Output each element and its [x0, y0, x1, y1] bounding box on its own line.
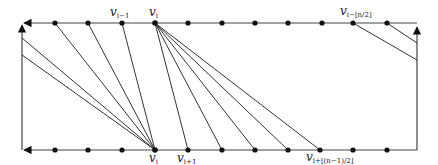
- chord: [155, 23, 288, 150]
- vertex-v-i-minus-1: [119, 20, 124, 25]
- chords: [22, 23, 417, 150]
- vertex: [185, 20, 190, 25]
- vertex-v-i-top: [152, 20, 158, 26]
- chord: [353, 23, 417, 60]
- vertex: [52, 147, 57, 152]
- chord: [55, 23, 155, 150]
- vertex: [285, 20, 290, 25]
- chord: [155, 23, 222, 150]
- vertex: [384, 20, 389, 25]
- label-v-i-top: vi: [149, 5, 159, 20]
- label-v-i-plus-half-n-minus-1: vi+⌊(n−1)/2⌋: [306, 150, 354, 165]
- vertex-v-i-plus-1: [185, 147, 190, 152]
- chord: [387, 23, 417, 43]
- label-v-i-bottom: vi: [149, 151, 159, 165]
- chord: [88, 23, 155, 150]
- chord: [155, 23, 255, 150]
- vertex-v-i-plus-half-n-minus-1: [317, 147, 322, 152]
- vertex: [350, 147, 355, 152]
- vertex: [119, 147, 124, 152]
- chord: [22, 38, 155, 150]
- label-v-i-minus-half-n: vi−⌊n/2⌋: [340, 4, 372, 19]
- chord: [155, 23, 320, 150]
- vertex: [219, 147, 224, 152]
- labels: vi−1 vi vi−⌊n/2⌋ vi vi+1 vi+⌊(n−1)/2⌋: [110, 4, 372, 165]
- vertex-v-i-minus-half-n: [350, 20, 355, 25]
- vertex: [252, 20, 257, 25]
- frame: [22, 23, 417, 150]
- vertex: [384, 147, 389, 152]
- vertex: [85, 20, 90, 25]
- label-v-i-plus-1: vi+1: [177, 151, 196, 165]
- vertex: [319, 20, 324, 25]
- chord: [155, 23, 188, 150]
- label-v-i-minus-1: vi−1: [110, 5, 129, 20]
- graph-diagram: vi−1 vi vi−⌊n/2⌋ vi vi+1 vi+⌊(n−1)/2⌋: [0, 0, 438, 165]
- vertex: [219, 20, 224, 25]
- vertex: [52, 20, 57, 25]
- vertex: [285, 147, 290, 152]
- chord: [22, 55, 155, 150]
- vertex: [85, 147, 90, 152]
- chord: [122, 23, 155, 150]
- vertex: [252, 147, 257, 152]
